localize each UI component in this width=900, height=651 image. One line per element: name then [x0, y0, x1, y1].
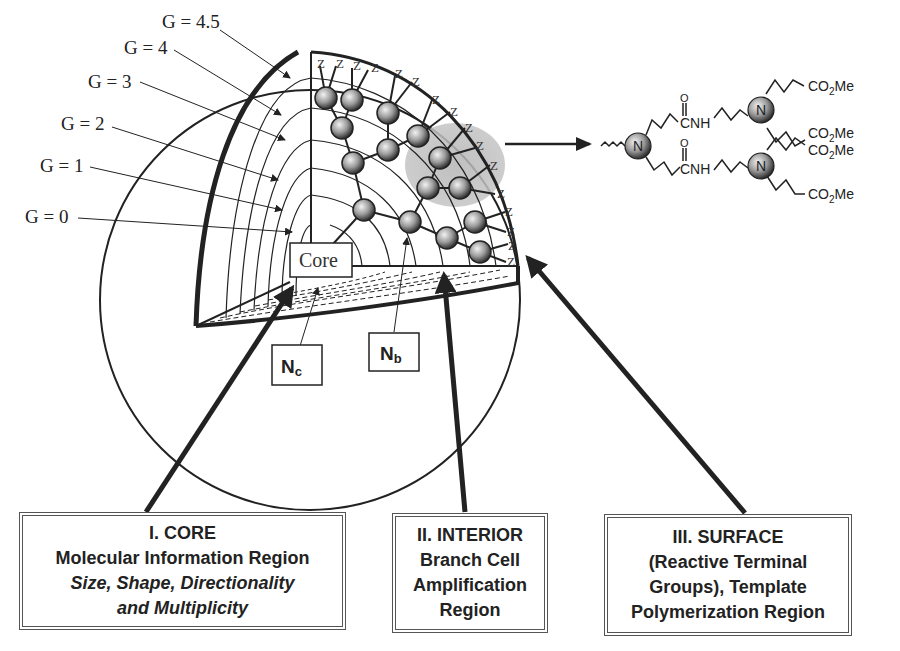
svg-text:Z: Z [507, 254, 515, 269]
svg-text:CO2Me: CO2Me [808, 186, 854, 205]
svg-text:G = 4.5: G = 4.5 [162, 11, 220, 32]
svg-text:G = 0: G = 0 [25, 206, 68, 227]
svg-text:G = 3: G = 3 [88, 71, 131, 92]
core-region-arrow [146, 288, 292, 512]
svg-text:Z: Z [497, 186, 505, 201]
interior-region-box: II. INTERIOR Branch Cell Amplification R… [392, 513, 548, 633]
svg-text:Z: Z [490, 158, 498, 173]
interior-region-arrow [444, 275, 465, 512]
interior-region-line: Region [396, 598, 544, 623]
svg-text:Z: Z [317, 56, 325, 71]
svg-text:CNH: CNH [680, 115, 710, 131]
svg-text:Z: Z [395, 66, 403, 81]
core-region-title: I. CORE [23, 521, 342, 546]
svg-text:Z: Z [432, 92, 440, 107]
svg-text:Z: Z [465, 120, 473, 135]
core-box: Core [290, 243, 352, 277]
svg-text:G = 1: G = 1 [40, 155, 83, 176]
core-region-box: I. CORE Molecular Information Region Siz… [19, 512, 346, 630]
core-region-italic-line: and Multiplicity [23, 596, 342, 621]
svg-text:G = 2: G = 2 [61, 113, 104, 134]
chemical-structure-atoms: N N N O CNH O CNH CO2Me CO2Me CO2Me CO2M… [625, 78, 854, 205]
svg-text:Z: Z [412, 74, 420, 89]
svg-text:N: N [756, 158, 766, 174]
surface-region-line: (Reactive Terminal [608, 550, 848, 575]
svg-text:Core: Core [299, 249, 338, 271]
surface-region-title: III. SURFACE [608, 525, 848, 550]
surface-region-arrow [528, 258, 745, 513]
interior-region-title: II. INTERIOR [396, 523, 544, 548]
region-arrows [146, 258, 745, 513]
svg-text:O: O [680, 137, 689, 149]
svg-text:CO2Me: CO2Me [808, 78, 854, 97]
generation-labels: G = 4.5 G = 4 G = 3 G = 2 G = 1 G = 0 [25, 11, 220, 227]
svg-text:Z: Z [371, 60, 379, 75]
interior-region-line: Branch Cell [396, 548, 544, 573]
svg-text:Z: Z [450, 104, 458, 119]
core-region-italic-line: Size, Shape, Directionality [23, 571, 342, 596]
surface-region-line: Groups), Template [608, 575, 848, 600]
svg-text:N: N [756, 102, 766, 118]
core-region-line: Molecular Information Region [23, 546, 342, 571]
svg-text:Z: Z [353, 58, 361, 73]
surface-region-line: Polymerization Region [608, 600, 848, 625]
nc-pointer: Nc [272, 288, 322, 385]
svg-text:Z: Z [476, 138, 484, 153]
surface-region-box: III. SURFACE (Reactive Terminal Groups),… [604, 514, 852, 636]
svg-text:CO2Me: CO2Me [808, 142, 854, 161]
svg-text:G = 4: G = 4 [124, 37, 168, 58]
svg-text:N: N [633, 138, 643, 154]
svg-text:Z: Z [336, 56, 344, 71]
svg-text:Z: Z [508, 238, 516, 253]
svg-text:Z: Z [505, 204, 513, 219]
interior-region-line: Amplification [396, 573, 544, 598]
svg-text:O: O [680, 92, 689, 104]
svg-text:Z: Z [507, 224, 515, 239]
svg-text:CNH: CNH [680, 161, 710, 177]
